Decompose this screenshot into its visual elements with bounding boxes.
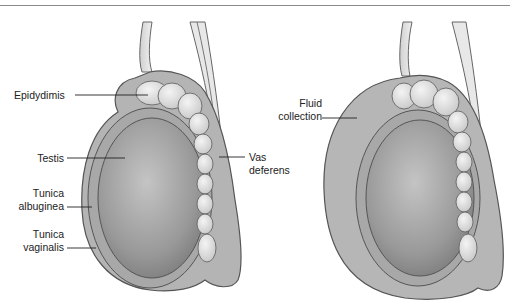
label-tunica-albuginea-line2: albuginea xyxy=(18,200,64,212)
label-epididymis: Epidydimis xyxy=(14,89,65,101)
label-vas-deferens-line1: Vas xyxy=(249,151,266,163)
label-testis: Testis xyxy=(37,152,64,164)
label-tunica-vaginalis-line2: vaginalis xyxy=(23,241,64,253)
label-tunica-vaginalis-line1: Tunica xyxy=(33,228,64,240)
label-tunica-albuginea-line1: Tunica xyxy=(33,187,64,199)
label-fluid-line2: collection xyxy=(278,110,322,122)
label-vas-deferens-line2: deferens xyxy=(249,164,290,176)
label-fluid-line1: Fluid xyxy=(299,97,322,109)
hydrocele-panel xyxy=(322,22,503,299)
normal-testis-panel xyxy=(67,22,245,291)
